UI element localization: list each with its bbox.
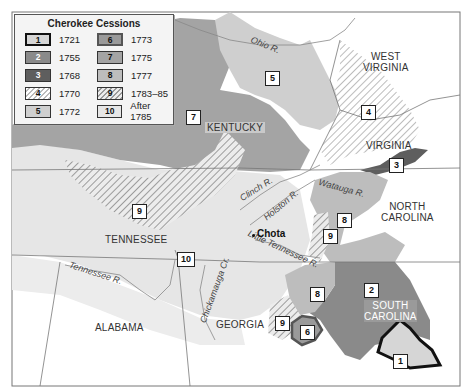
legend-item-1755: 2 1755 <box>25 50 80 64</box>
region-marker-9: 9 <box>323 229 338 244</box>
legend-swatch-6: 6 <box>97 33 123 46</box>
region-marker-10: 10 <box>177 252 195 267</box>
place-label-chota: Chota <box>257 228 285 239</box>
state-label-kentucky: KENTUCKY <box>205 122 265 133</box>
legend-item-1768: 3 1768 <box>25 68 80 82</box>
legend-year: 1772 <box>59 106 80 117</box>
region-marker-8: 8 <box>310 287 325 302</box>
legend-year: 1777 <box>131 70 152 81</box>
legend-year: 1773 <box>131 34 152 45</box>
chota-dot-icon <box>252 234 255 237</box>
legend-item-1777: 8 1777 <box>97 68 152 82</box>
legend-year: 1770 <box>59 88 80 99</box>
legend-year: 1721 <box>59 34 80 45</box>
legend-item-1783-85: 9 1783–85 <box>97 86 168 100</box>
legend-year: 1768 <box>59 70 80 81</box>
region-marker-3: 3 <box>389 158 404 173</box>
legend-swatch-10: 10 <box>97 105 122 118</box>
region-marker-6: 6 <box>300 325 315 340</box>
legend-swatch-3: 3 <box>25 69 51 82</box>
state-label-west-virginia: WEST VIRGINIA <box>363 51 409 73</box>
legend-year: 1783–85 <box>131 88 168 99</box>
legend-swatch-2: 2 <box>25 51 51 64</box>
state-label-north-carolina: NORTH CAROLINA <box>381 201 434 223</box>
legend-year: After 1785 <box>130 100 173 122</box>
region-marker-9: 9 <box>275 316 290 331</box>
state-label-south-carolina: SOUTH CAROLINA <box>364 300 417 322</box>
region-marker-4: 4 <box>361 105 376 120</box>
legend-item-1721: 1 1721 <box>25 32 80 46</box>
region-marker-8: 8 <box>337 213 352 228</box>
legend-swatch-9: 9 <box>97 87 123 100</box>
legend: Cherokee Cessions 1 1721 2 1755 3 1768 4… <box>14 14 174 125</box>
legend-item-1770: 4 1770 <box>25 86 80 100</box>
state-label-tennessee: TENNESSEE <box>105 234 167 245</box>
legend-swatch-1: 1 <box>25 33 51 46</box>
region-marker-5: 5 <box>265 71 280 86</box>
legend-item-1775: 7 1775 <box>97 50 152 64</box>
legend-swatch-7: 7 <box>97 51 123 64</box>
state-label-georgia: GEORGIA <box>216 319 264 330</box>
legend-item-1772: 5 1772 <box>25 104 80 118</box>
legend-item-after-1785: 10 After 1785 <box>97 104 173 118</box>
legend-title: Cherokee Cessions <box>15 18 173 29</box>
region-marker-2: 2 <box>364 283 379 298</box>
region-marker-9: 9 <box>132 204 147 219</box>
region-marker-1: 1 <box>393 354 408 369</box>
state-label-alabama: ALABAMA <box>95 322 144 333</box>
legend-item-1773: 6 1773 <box>97 32 152 46</box>
legend-swatch-8: 8 <box>97 69 123 82</box>
legend-year: 1755 <box>59 52 80 63</box>
legend-year: 1775 <box>131 52 152 63</box>
legend-swatch-5: 5 <box>25 105 51 118</box>
legend-swatch-4: 4 <box>25 87 51 100</box>
state-label-virginia: VIRGINIA <box>366 140 412 151</box>
region-marker-7: 7 <box>186 110 201 125</box>
